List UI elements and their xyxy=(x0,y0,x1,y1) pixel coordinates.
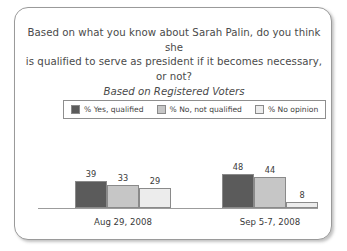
chart-title-line-1: Based on what you know about Sarah Palin… xyxy=(23,26,325,55)
legend-item-no-opinion: % No opinion xyxy=(255,105,318,114)
bar-column: 48 xyxy=(222,153,254,208)
bar-column: 44 xyxy=(254,153,286,208)
bar xyxy=(222,174,254,208)
bar-column: 39 xyxy=(75,153,107,208)
legend-item-yes-qualified: % Yes, qualified xyxy=(71,105,144,114)
bar-value-label: 8 xyxy=(299,191,304,200)
bar xyxy=(139,188,171,208)
legend-swatch-no-opinion xyxy=(255,105,264,114)
bar xyxy=(254,177,286,208)
bar-column: 29 xyxy=(139,153,171,208)
bar-group: 48448Sep 5-7, 2008 xyxy=(222,133,318,228)
bar-column: 33 xyxy=(107,153,139,208)
bar-value-label: 33 xyxy=(118,174,128,183)
chart-plot-area: 393329Aug 29, 200848448Sep 5-7, 2008 xyxy=(25,133,321,231)
poll-chart-card: Based on what you know about Sarah Palin… xyxy=(14,7,332,240)
bar-group-bars: 393329 xyxy=(75,153,171,208)
bar-group-label: Sep 5-7, 2008 xyxy=(222,217,318,227)
bar xyxy=(286,202,318,208)
bar-value-label: 29 xyxy=(150,177,160,186)
chart-subtitle: Based on Registered Voters xyxy=(23,84,325,99)
bar-group-bars: 48448 xyxy=(222,153,318,208)
legend-label-no-opinion: % No opinion xyxy=(268,105,318,114)
chart-legend: % Yes, qualified % No, not qualified % N… xyxy=(63,100,326,119)
bar-value-label: 48 xyxy=(233,163,243,172)
legend-swatch-yes-qualified xyxy=(71,105,80,114)
bar xyxy=(75,181,107,208)
chart-title-block: Based on what you know about Sarah Palin… xyxy=(23,26,325,99)
bar-group: 393329Aug 29, 2008 xyxy=(75,133,171,228)
bar-value-label: 44 xyxy=(265,166,275,175)
legend-label-yes-qualified: % Yes, qualified xyxy=(84,105,144,114)
bar-column: 8 xyxy=(286,153,318,208)
bar xyxy=(107,185,139,208)
bar-group-label: Aug 29, 2008 xyxy=(75,217,171,227)
legend-swatch-no-not-qualified xyxy=(157,105,166,114)
chart-title-line-2: is qualified to serve as president if it… xyxy=(23,55,325,84)
legend-label-no-not-qualified: % No, not qualified xyxy=(170,105,242,114)
bar-value-label: 39 xyxy=(86,170,96,179)
legend-item-no-not-qualified: % No, not qualified xyxy=(157,105,242,114)
